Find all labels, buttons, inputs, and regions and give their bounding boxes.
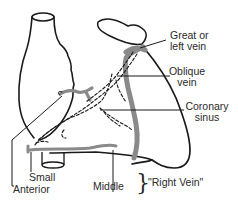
great-vein <box>125 47 143 158</box>
coronary-sinus-label: Coronary sinus <box>182 101 232 123</box>
leader-lines <box>12 40 184 192</box>
great-vein-label: Great or left vein <box>170 30 209 52</box>
dashed-posterior-veins <box>34 52 137 146</box>
anterior-vein-label: Anterior <box>13 184 50 195</box>
atrium-outline <box>98 19 147 44</box>
great-vein-label-line2: left vein <box>170 41 209 52</box>
small-vein-label: Small <box>29 172 55 183</box>
aorta-outline <box>19 13 74 140</box>
coronary-sinus-label-line2: sinus <box>182 112 232 123</box>
small-vein-ring <box>42 152 64 168</box>
small-vein <box>30 145 116 150</box>
middle-vein-label: Middle <box>93 181 124 192</box>
heart-venous-diagram: Great or left vein Oblique vein Coronary… <box>0 0 238 209</box>
oblique-vein-label: Oblique vein <box>166 66 208 88</box>
oblique-vein-label-line2: vein <box>166 77 208 88</box>
right-vein-label: "Right Vein" <box>148 177 203 188</box>
anterior-vein <box>60 88 92 100</box>
